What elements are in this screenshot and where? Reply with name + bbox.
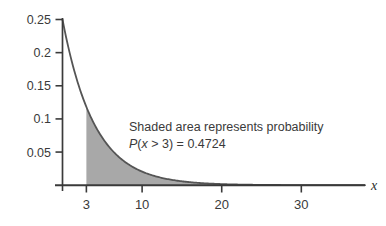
exponential-distribution-chart: 0.25 0.2 0.15 0.1 0.05 3 10 20 30 x Shad… [0, 0, 386, 226]
x-axis-ticks [86, 185, 301, 192]
annotation-relation: > 3) = [148, 137, 188, 151]
y-tick-label-0.15: 0.15 [27, 79, 51, 93]
x-tick-label-10: 10 [135, 197, 149, 212]
y-axis-ticks [56, 20, 63, 153]
annotation-probability-value: 0.4724 [187, 137, 225, 151]
x-tick-label-30: 30 [294, 197, 308, 212]
y-tick-label-0.1: 0.1 [34, 112, 51, 126]
annotation-shaded-area-text: Shaded area represents probability [129, 120, 324, 134]
chart-plot-area: 0.25 0.2 0.15 0.1 0.05 3 10 20 30 x Shad… [0, 0, 386, 226]
x-tick-label-20: 20 [214, 197, 228, 212]
x-tick-label-3: 3 [83, 197, 90, 212]
y-tick-label-0.05: 0.05 [27, 146, 51, 160]
y-tick-label-0.25: 0.25 [27, 13, 51, 27]
y-tick-label-0.2: 0.2 [34, 46, 51, 60]
annotation-probability-statement: P(x > 3) = 0.4724 [129, 137, 226, 151]
x-axis-label: x [370, 178, 378, 193]
